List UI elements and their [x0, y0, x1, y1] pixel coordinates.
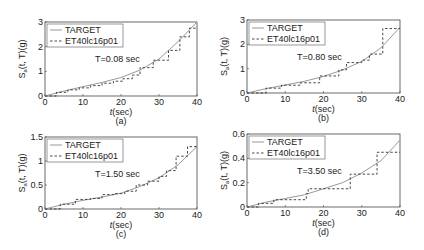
- subplot-d: 01020304000.20.40.6TARGETET40lc16p01T=3.…: [219, 129, 405, 237]
- x-tick-label: 30: [357, 208, 367, 218]
- subplot-b: 0102030400123TARGETET40lc16p01T=0.80 sec…: [219, 15, 405, 123]
- figure: 0102030400123TARGETET40lc16p01T=0.08 sec…: [0, 0, 424, 250]
- x-tick-label: 20: [318, 208, 328, 218]
- y-tick-label: 1: [38, 66, 43, 76]
- y-tick-label: 0: [240, 202, 245, 212]
- legend-label-record: ET40lc16p01: [267, 34, 320, 44]
- x-tick-label: 0: [42, 97, 47, 107]
- legend-label-target: TARGET: [65, 25, 101, 35]
- x-tick-label: 0: [244, 208, 249, 218]
- x-tick-label: 40: [395, 94, 405, 104]
- x-tick-label: 10: [78, 97, 88, 107]
- period-annotation: T=0.80 sec: [297, 52, 342, 62]
- y-axis-label: Sa(t, T)(g): [219, 37, 230, 76]
- period-annotation: T=0.08 sec: [95, 54, 140, 64]
- y-tick-label: 0.5: [30, 180, 43, 190]
- y-tick-label: 0: [240, 88, 245, 98]
- y-tick-label: 2: [38, 42, 43, 52]
- y-tick-label: 3: [38, 17, 43, 27]
- x-tick-label: 40: [192, 97, 202, 107]
- y-axis-label: Sa(t, T)(g): [17, 39, 28, 78]
- y-tick-label: 0.6: [232, 129, 245, 139]
- subplot-a: 0102030400123TARGETET40lc16p01T=0.08 sec…: [17, 17, 202, 126]
- period-annotation: T=1.50 sec: [95, 169, 140, 179]
- y-tick-label: 0.2: [232, 178, 245, 188]
- x-tick-label: 30: [154, 97, 164, 107]
- legend-label-target: TARGET: [267, 137, 303, 147]
- x-tick-label: 20: [318, 94, 328, 104]
- x-tick-label: 10: [280, 94, 290, 104]
- x-tick-label: 0: [244, 94, 249, 104]
- x-tick-label: 10: [78, 210, 88, 220]
- x-tick-label: 10: [280, 208, 290, 218]
- panel-label: (d): [318, 227, 329, 237]
- legend-label-target: TARGET: [65, 140, 101, 150]
- panel-label: (b): [318, 113, 329, 123]
- y-axis-label: Sa(t, T)(g): [219, 151, 230, 190]
- y-tick-label: 1: [240, 64, 245, 74]
- y-tick-label: 0: [38, 204, 43, 214]
- y-tick-label: 3: [240, 15, 245, 25]
- x-tick-label: 30: [154, 210, 164, 220]
- period-annotation: T=3.50 sec: [297, 166, 342, 176]
- legend-label-record: ET40lc16p01: [65, 36, 118, 46]
- x-tick-label: 30: [357, 94, 367, 104]
- panel-label: (c): [116, 229, 127, 239]
- y-tick-label: 1: [38, 156, 43, 166]
- subplot-c: 01020304000.511.5TARGETET40lc16p01T=1.50…: [17, 132, 202, 239]
- legend-label-record: ET40lc16p01: [65, 151, 118, 161]
- x-tick-label: 40: [395, 208, 405, 218]
- y-axis-label: Sa(t, T)(g): [17, 153, 28, 192]
- x-tick-label: 40: [192, 210, 202, 220]
- x-tick-label: 20: [116, 97, 126, 107]
- legend-label-target: TARGET: [267, 23, 303, 33]
- y-tick-label: 2: [240, 39, 245, 49]
- y-tick-label: 0.4: [232, 153, 245, 163]
- y-tick-label: 1.5: [30, 132, 43, 142]
- legend-label-record: ET40lc16p01: [267, 148, 320, 158]
- x-tick-label: 0: [42, 210, 47, 220]
- y-tick-label: 0: [38, 91, 43, 101]
- panel-label: (a): [116, 116, 127, 126]
- x-tick-label: 20: [116, 210, 126, 220]
